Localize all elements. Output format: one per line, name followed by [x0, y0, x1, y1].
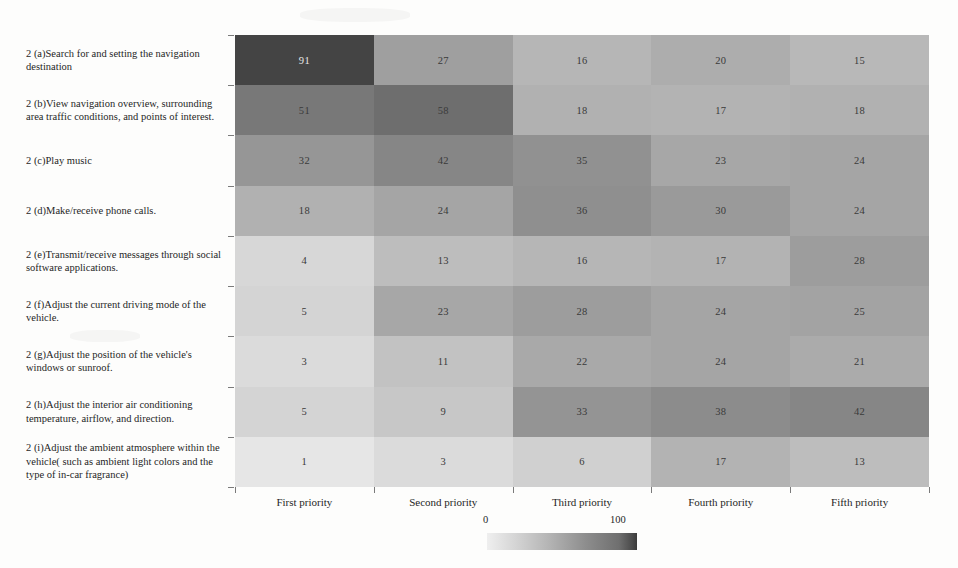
row-label: 2 (f)Adjust the current driving mode of … — [26, 298, 226, 325]
heatmap-cell[interactable]: 3 — [374, 437, 513, 487]
heatmap-cell[interactable]: 17 — [651, 236, 790, 286]
y-axis-tick — [228, 487, 234, 488]
row-label: 2 (e)Transmit/receive messages through s… — [26, 248, 226, 275]
heatmap-cell[interactable]: 36 — [513, 186, 652, 236]
heatmap-cell[interactable]: 11 — [374, 336, 513, 386]
heatmap-cell[interactable]: 17 — [651, 85, 790, 135]
heatmap-cell[interactable]: 18 — [513, 85, 652, 135]
heatmap-cell[interactable]: 24 — [651, 286, 790, 336]
heatmap-cell[interactable]: 15 — [790, 35, 929, 85]
y-axis-tick — [228, 85, 234, 86]
heatmap-cell[interactable]: 24 — [790, 135, 929, 185]
heatmap-grid[interactable]: 9127162015515818171832423523241824363024… — [235, 35, 929, 487]
colorbar — [487, 533, 637, 550]
heatmap-cell[interactable]: 5 — [235, 387, 374, 437]
heatmap-cell[interactable]: 42 — [790, 387, 929, 437]
heatmap-cell[interactable]: 20 — [651, 35, 790, 85]
y-axis-tick — [228, 387, 234, 388]
colorbar-min-label: 0 — [483, 514, 488, 525]
colorbar-gradient — [487, 533, 637, 550]
column-label: Third priority — [513, 496, 652, 508]
heatmap-row: 1824363024 — [235, 186, 929, 236]
heatmap-cell[interactable]: 24 — [651, 336, 790, 386]
heatmap-row: 413161728 — [235, 236, 929, 286]
heatmap-cell[interactable]: 5 — [235, 286, 374, 336]
heatmap-cell[interactable]: 16 — [513, 35, 652, 85]
heatmap-cell[interactable]: 4 — [235, 236, 374, 286]
heatmap-cell[interactable]: 30 — [651, 186, 790, 236]
heatmap-cell[interactable]: 23 — [651, 135, 790, 185]
heatmap-cell[interactable]: 32 — [235, 135, 374, 185]
y-axis-tick — [228, 135, 234, 136]
heatmap-row: 1361713 — [235, 437, 929, 487]
x-axis-tick — [790, 487, 791, 493]
y-axis-tick — [228, 336, 234, 337]
heatmap-cell[interactable]: 16 — [513, 236, 652, 286]
heatmap-cell[interactable]: 23 — [374, 286, 513, 336]
heatmap-cell[interactable]: 22 — [513, 336, 652, 386]
row-label: 2 (d)Make/receive phone calls. — [26, 204, 226, 218]
x-axis-tick — [374, 487, 375, 493]
heatmap-row: 59333842 — [235, 387, 929, 437]
heatmap-cell[interactable]: 25 — [790, 286, 929, 336]
x-axis-tick — [929, 487, 930, 493]
heatmap-row: 523282425 — [235, 286, 929, 336]
row-label: 2 (h)Adjust the interior air conditionin… — [26, 398, 226, 425]
heatmap-cell[interactable]: 18 — [235, 186, 374, 236]
y-axis-tick — [228, 236, 234, 237]
heatmap-cell[interactable]: 58 — [374, 85, 513, 135]
y-axis-tick — [228, 35, 234, 36]
x-axis-tick — [513, 487, 514, 493]
row-label: 2 (g)Adjust the position of the vehicle'… — [26, 348, 226, 375]
row-label: 2 (b)View navigation overview, surroundi… — [26, 97, 226, 124]
y-axis-tick — [228, 186, 234, 187]
heatmap-cell[interactable]: 9 — [374, 387, 513, 437]
colorbar-max-label: 100 — [610, 514, 626, 525]
x-axis-tick — [651, 487, 652, 493]
heatmap-cell[interactable]: 33 — [513, 387, 652, 437]
heatmap-cell[interactable]: 24 — [790, 186, 929, 236]
column-label: First priority — [235, 496, 374, 508]
heatmap-cell[interactable]: 13 — [790, 437, 929, 487]
heatmap-cell[interactable]: 1 — [235, 437, 374, 487]
heatmap-cell[interactable]: 38 — [651, 387, 790, 437]
heatmap-cell[interactable]: 28 — [790, 236, 929, 286]
heatmap-cell[interactable]: 17 — [651, 437, 790, 487]
heatmap-cell[interactable]: 42 — [374, 135, 513, 185]
y-axis-tick — [228, 286, 234, 287]
row-label: 2 (i)Adjust the ambient atmosphere withi… — [26, 441, 226, 482]
heatmap-cell[interactable]: 18 — [790, 85, 929, 135]
heatmap-cell[interactable]: 27 — [374, 35, 513, 85]
heatmap-cell[interactable]: 28 — [513, 286, 652, 336]
heatmap-row: 311222421 — [235, 336, 929, 386]
heatmap-cell[interactable]: 24 — [374, 186, 513, 236]
row-label: 2 (a)Search for and setting the navigati… — [26, 47, 226, 74]
row-label: 2 (c)Play music — [26, 154, 226, 168]
heatmap-cell[interactable]: 35 — [513, 135, 652, 185]
heatmap-row: 5158181718 — [235, 85, 929, 135]
heatmap-cell[interactable]: 13 — [374, 236, 513, 286]
column-label: Fifth priority — [790, 496, 929, 508]
y-axis-tick — [228, 437, 234, 438]
heatmap-cell[interactable]: 91 — [235, 35, 374, 85]
heatmap-row: 3242352324 — [235, 135, 929, 185]
row-label-axis: 2 (a)Search for and setting the navigati… — [26, 35, 226, 487]
column-label: Fourth priority — [651, 496, 790, 508]
column-label: Second priority — [374, 496, 513, 508]
heatmap-row: 9127162015 — [235, 35, 929, 85]
heatmap-cell[interactable]: 3 — [235, 336, 374, 386]
x-axis-tick — [235, 487, 236, 493]
heatmap-cell[interactable]: 51 — [235, 85, 374, 135]
column-label-axis: First prioritySecond priorityThird prior… — [235, 496, 929, 508]
heatmap-cell[interactable]: 21 — [790, 336, 929, 386]
heatmap-cell[interactable]: 6 — [513, 437, 652, 487]
